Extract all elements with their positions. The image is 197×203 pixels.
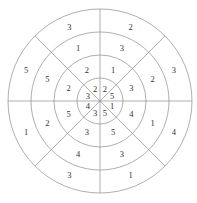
cell-label-ring-3-N-NW: 2 xyxy=(85,65,89,75)
ring-puzzle-figure: 32341315132134252134535222515343 xyxy=(0,0,197,203)
cell-label-ring-4-inner-W-SW: 4 xyxy=(86,101,91,111)
cell-label-ring-4-inner-N-NE: 2 xyxy=(103,84,107,94)
cell-label-ring-4-inner-E-SE: 1 xyxy=(110,101,114,111)
cell-label-ring-2-S-SW: 4 xyxy=(76,149,81,159)
cell-label-ring-1-outer-E-NE: 3 xyxy=(172,65,176,75)
cell-label-ring-2-E-SE: 1 xyxy=(151,118,155,128)
cell-label-ring-1-outer-N-NE: 2 xyxy=(128,22,132,32)
cell-label-ring-4-inner-W-NW: 3 xyxy=(86,91,90,101)
cell-label-ring-3-W-SW: 5 xyxy=(66,109,70,119)
cell-label-ring-1-outer-W-NW: 5 xyxy=(24,65,28,75)
cell-label-ring-3-W-NW: 2 xyxy=(66,83,70,93)
cell-label-ring-2-N-NE: 3 xyxy=(120,43,124,53)
cell-label-ring-2-N-NW: 1 xyxy=(76,43,80,53)
cell-label-ring-3-S-SE: 5 xyxy=(111,127,115,137)
cell-label-ring-4-inner-S-SW: 3 xyxy=(93,108,97,118)
cell-label-ring-4-inner-N-NW: 2 xyxy=(93,84,97,94)
cell-label-ring-2-E-NE: 2 xyxy=(151,74,155,84)
cell-label-ring-3-S-SW: 3 xyxy=(85,127,89,137)
cell-label-ring-3-E-NE: 3 xyxy=(129,83,133,93)
cell-label-ring-3-E-SE: 4 xyxy=(129,109,134,119)
cell-label-ring-1-outer-E-SE: 4 xyxy=(172,127,177,137)
ring-puzzle-canvas: 32341315132134252134535222515343 xyxy=(0,0,197,203)
cell-label-ring-1-outer-W-SW: 1 xyxy=(24,127,28,137)
cell-label-ring-2-W-SW: 2 xyxy=(45,118,49,128)
cell-label-ring-1-outer-S-SE: 1 xyxy=(128,170,132,180)
cell-label-ring-2-W-NW: 5 xyxy=(45,74,49,84)
cell-label-ring-1-outer-N-NW: 3 xyxy=(67,22,71,32)
radial-dividers-group xyxy=(8,9,192,193)
cell-label-ring-2-S-SE: 3 xyxy=(120,149,124,159)
cell-label-ring-4-inner-S-SE: 5 xyxy=(103,108,107,118)
cell-label-ring-4-inner-E-NE: 5 xyxy=(110,91,114,101)
cell-label-ring-3-N-NE: 1 xyxy=(111,65,115,75)
cell-label-ring-1-outer-S-SW: 3 xyxy=(67,170,71,180)
